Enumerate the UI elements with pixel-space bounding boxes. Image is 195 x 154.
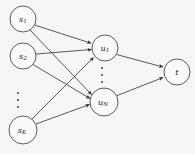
edge-s1-uN: [30, 30, 92, 95]
edge-s1-u1: [35, 25, 92, 43]
edge-s2-u1: [36, 50, 92, 55]
node-s1[interactable]: s1: [10, 6, 36, 32]
node-sK[interactable]: sK: [9, 116, 37, 144]
hidden-layer-ellipsis-icon: [101, 67, 103, 83]
graph-diagram: s1 s2 sK u1: [0, 0, 195, 154]
edge-sK-u1: [31, 58, 94, 121]
edge-group-source-to-hidden: [30, 25, 94, 124]
figure-canvas: s1 s2 sK u1: [0, 0, 195, 154]
node-t[interactable]: t: [164, 59, 190, 85]
node-s2[interactable]: s2: [10, 43, 36, 69]
source-layer-ellipsis-icon: [17, 92, 19, 108]
node-u1[interactable]: u1: [92, 35, 118, 61]
edge-u1-t: [117, 55, 164, 68]
edge-group-hidden-to-target: [116, 55, 163, 97]
edge-uN-t: [116, 78, 163, 97]
node-uN[interactable]: uN: [90, 88, 118, 116]
